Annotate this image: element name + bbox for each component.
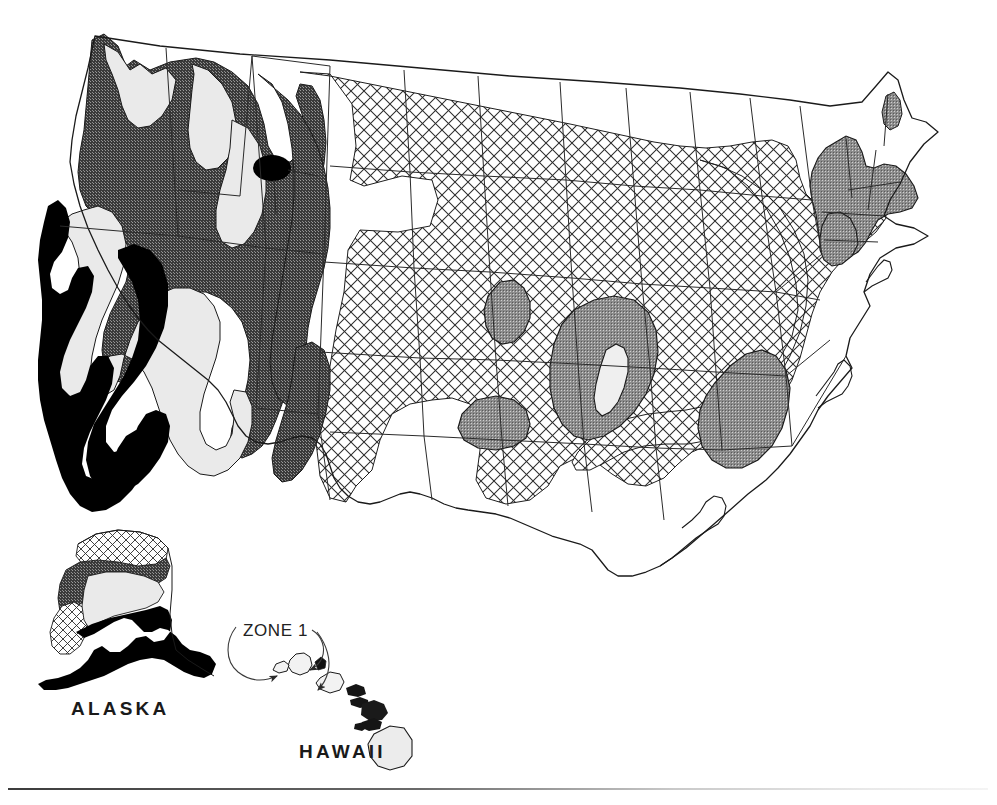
map-svg: ALASKA HAWAII ZONE 1 <box>0 0 997 805</box>
zone4-ellipse-salt-lake <box>253 155 291 181</box>
alaska-label: ALASKA <box>71 698 169 719</box>
seismic-zone-map-figure: ALASKA HAWAII ZONE 1 <box>0 0 997 805</box>
hawaii-label: HAWAII <box>299 741 386 762</box>
zone1-callout-label: ZONE 1 <box>243 621 308 640</box>
bottom-rule <box>8 788 988 790</box>
